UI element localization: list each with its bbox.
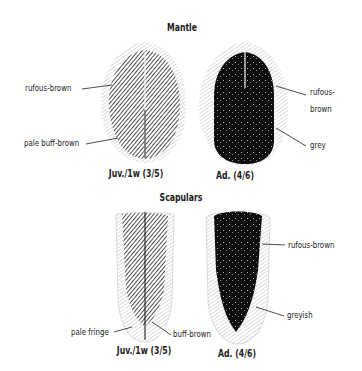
section-title-mantle: Mantle	[162, 21, 201, 33]
caption-scapulars-adult: Ad. (4/6)	[214, 347, 260, 359]
label-scap-ad-greyish: greyish	[287, 309, 313, 320]
section-title-scapulars: Scapulars	[156, 191, 207, 203]
label-scap-juv-pale-fringe: pale fringe	[71, 326, 109, 337]
label-mantle-juv-pale-buff-brown: pale buff-brown	[24, 137, 79, 148]
label-mantle-juv-rufous-brown: rufous-brown	[25, 82, 71, 93]
scapulars-juvenile-feather	[116, 212, 174, 342]
label-mantle-ad-grey: grey	[310, 139, 326, 150]
mantle-adult-feather	[199, 42, 288, 166]
caption-mantle-adult: Ad. (4/6)	[212, 169, 258, 181]
label-scap-ad-rufous-brown: rufous-brown	[288, 239, 334, 250]
label-mantle-ad-rufous: rufous-	[310, 86, 335, 97]
label-mantle-ad-brown: brown	[310, 103, 332, 114]
label-scap-juv-buff-brown: buff-brown	[173, 328, 211, 339]
scapulars-adult-feather	[206, 212, 270, 345]
caption-mantle-juvenile: Juv./1w (3/5)	[105, 167, 167, 179]
mantle-juvenile-feather	[101, 42, 186, 163]
caption-scapulars-juvenile: Juv./1w (3/5)	[113, 344, 175, 356]
